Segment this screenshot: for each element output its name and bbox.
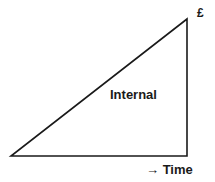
region-label: Internal (110, 88, 157, 101)
triangle-diagram (0, 0, 215, 182)
currency-label: £ (197, 7, 204, 19)
time-axis-label: → Time (146, 163, 193, 176)
time-label: Time (163, 162, 193, 177)
arrow-right-icon: → (146, 162, 159, 177)
cost-triangle (11, 19, 187, 156)
